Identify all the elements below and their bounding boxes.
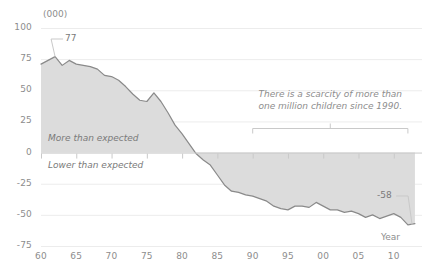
x-tick-label: 95 (276, 251, 300, 261)
y-tick-label: 100 (2, 22, 32, 32)
annotation-bracket (253, 124, 408, 134)
x-tick-label: 60 (29, 251, 53, 261)
x-tick-label: 85 (205, 251, 229, 261)
x-axis-title: Year (381, 232, 400, 242)
y-tick-label: 50 (2, 84, 32, 94)
x-tick-label: 65 (64, 251, 88, 261)
x-tick-label: 05 (347, 251, 371, 261)
y-tick-label: -25 (2, 178, 32, 188)
chart-container: (000) 1007550250-25-50-75 60657075808590… (0, 0, 429, 273)
x-tick-label: 75 (135, 251, 159, 261)
scarcity-annotation: There is a scarcity of more than one mil… (245, 88, 415, 112)
x-tick-label: 80 (170, 251, 194, 261)
x-tick-label: 70 (100, 251, 124, 261)
peak-value-label: 77 (65, 33, 76, 43)
unit-label: (000) (43, 9, 67, 19)
y-tick-label: -50 (2, 209, 32, 219)
x-tick-label: 10 (382, 251, 406, 261)
x-tick-label: 90 (241, 251, 265, 261)
y-tick-label: 25 (2, 115, 32, 125)
y-tick-label: 75 (2, 53, 32, 63)
zone-label-lower-than-expected: Lower than expected (48, 160, 143, 170)
last-value-label: -58 (377, 190, 392, 200)
y-tick-label: 0 (2, 147, 32, 157)
scarcity-annotation-line2: one million children since 1990. (258, 101, 402, 111)
y-tick-label: -75 (2, 240, 32, 250)
x-tick-label: 00 (311, 251, 335, 261)
scarcity-annotation-line1: There is a scarcity of more than (258, 89, 402, 99)
zone-label-more-than-expected: More than expected (48, 133, 139, 143)
